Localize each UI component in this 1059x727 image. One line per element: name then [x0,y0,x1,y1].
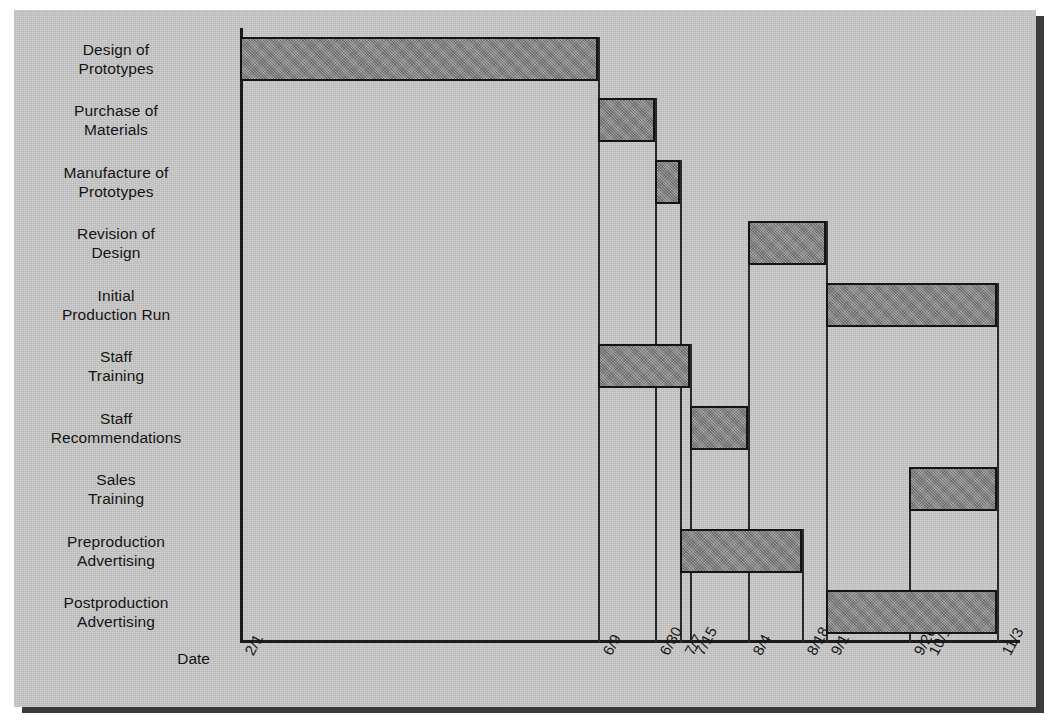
gantt-bar [690,406,748,450]
date-tick-label: 9/1 [827,631,852,658]
gantt-bar [598,344,690,388]
date-tick-label: 6/30 [656,624,685,658]
date-tick-label: 11/3 [998,624,1027,657]
date-tick-label: 6/9 [599,631,624,658]
gantt-bar [909,467,997,511]
date-tick-label: 2/1 [241,631,266,658]
gantt-bar [680,529,802,573]
gantt-bar [240,37,598,81]
gantt-bar [748,221,826,265]
gantt-bar [826,590,997,634]
scanned-page: Design ofPrototypesPurchase ofMaterialsM… [0,0,1059,727]
date-tick-label: 7/15 [691,624,720,658]
gantt-bar [826,283,997,327]
x-axis-title: Date [150,650,210,668]
gantt-bar [598,98,655,142]
date-tick-label: 8/4 [749,631,774,658]
gantt-bar [655,160,680,204]
